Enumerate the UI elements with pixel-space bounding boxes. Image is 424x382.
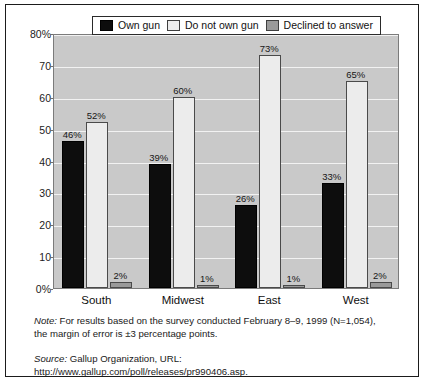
y-axis-tick-label: 20: [9, 220, 51, 230]
y-axis-tick-mark: [50, 289, 53, 290]
bar-value-label: 2%: [101, 271, 139, 281]
legend-item-donot: Do not own gun: [167, 20, 259, 31]
legend-label: Own gun: [118, 20, 160, 31]
note-text: For results based on the survey conducte…: [34, 315, 376, 339]
y-axis-tick-label: 50: [9, 125, 51, 135]
y-axis-tick-label: 80%: [9, 29, 51, 39]
bar-value-label: 2%: [361, 271, 399, 281]
bar-value-label: 1%: [274, 274, 312, 284]
legend-swatch-icon: [266, 20, 279, 31]
legend-swatch-icon: [100, 20, 113, 31]
bar-declined: [197, 285, 219, 288]
bar-do-not-own-gun: [259, 55, 281, 288]
footnotes: Note: For results based on the survey co…: [6, 301, 418, 378]
legend-swatch-icon: [167, 20, 180, 31]
note-label: Note:: [34, 315, 57, 326]
y-axis-tick-label: 70: [9, 61, 51, 71]
bar-group: [54, 35, 141, 288]
bar-value-label: 46%: [53, 130, 91, 140]
y-axis: 0%1020304050607080%: [6, 34, 51, 289]
legend-item-own: Own gun: [100, 20, 160, 31]
bar-do-not-own-gun: [346, 81, 368, 288]
figure-frame: 0%1020304050607080% Own gunDo not own gu…: [5, 4, 419, 377]
source-line: Source: Gallup Organization, URL: http:/…: [6, 352, 418, 378]
bar-group: [227, 35, 314, 288]
bar-value-label: 39%: [140, 153, 178, 163]
bar-value-label: 73%: [250, 44, 288, 54]
bar-value-label: 26%: [226, 194, 264, 204]
y-axis-tick-label: 40: [9, 157, 51, 167]
bar-value-label: 65%: [337, 70, 375, 80]
bar-value-label: 33%: [313, 172, 351, 182]
note-line: Note: For results based on the survey co…: [6, 314, 418, 340]
bar-value-label: 1%: [188, 274, 226, 284]
y-axis-tick-label: 30: [9, 188, 51, 198]
chart-legend: Own gunDo not own gunDeclined to answer: [92, 16, 381, 35]
bar-own-gun: [149, 164, 171, 288]
y-axis-tick-label: 10: [9, 252, 51, 262]
bar-declined: [283, 285, 305, 288]
bar-own-gun: [322, 183, 344, 288]
legend-label: Do not own gun: [185, 20, 259, 31]
bar-value-label: 52%: [77, 111, 115, 121]
bar-do-not-own-gun: [86, 122, 108, 288]
bar-declined: [110, 282, 132, 288]
source-text: Gallup Organization, URL: http://www.gal…: [34, 353, 248, 377]
legend-item-decl: Declined to answer: [266, 20, 373, 31]
bar-declined: [370, 282, 392, 288]
bar-value-label: 60%: [164, 86, 202, 96]
source-label: Source:: [34, 353, 67, 364]
y-axis-tick-label: 60: [9, 93, 51, 103]
chart-area: 0%1020304050607080% Own gunDo not own gu…: [6, 5, 418, 301]
bar-own-gun: [62, 141, 84, 288]
bar-do-not-own-gun: [173, 97, 195, 288]
legend-label: Declined to answer: [284, 20, 373, 31]
bar-own-gun: [235, 205, 257, 288]
y-axis-tick-label: 0%: [9, 284, 51, 294]
